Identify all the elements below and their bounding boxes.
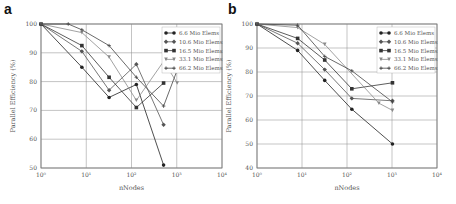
marker-square xyxy=(172,49,176,53)
marker-plus xyxy=(66,22,70,26)
panel-label: a xyxy=(4,1,12,17)
x-tick-label: 10⁴ xyxy=(217,171,228,178)
marker-circle xyxy=(135,83,139,87)
marker-circle xyxy=(107,96,111,100)
marker-square xyxy=(162,81,166,85)
marker-triangle xyxy=(377,101,381,105)
marker-square xyxy=(387,49,391,53)
legend-entry: 10.6 Mio Elems xyxy=(394,39,438,45)
y-tick-label: 60 xyxy=(245,116,253,123)
series-1 xyxy=(39,22,166,127)
figure: a506070809010010⁰10¹10²10³10⁴nNodesParal… xyxy=(0,0,456,204)
marker-circle xyxy=(296,49,300,53)
series-1 xyxy=(255,22,395,103)
marker-circle xyxy=(162,163,166,167)
x-tick-label: 10¹ xyxy=(297,171,307,178)
x-tick-label: 10⁴ xyxy=(432,171,443,178)
series-0 xyxy=(255,22,394,146)
x-axis-label: nNodes xyxy=(334,184,359,192)
legend: 6.6 Mio Elems10.6 Mio Elems16.5 Mio Elem… xyxy=(377,27,438,73)
legend-entry: 33.1 Mio Elems xyxy=(179,56,223,62)
x-tick-label: 10² xyxy=(126,171,137,178)
series-line xyxy=(257,24,393,102)
series-line xyxy=(257,24,393,101)
y-tick-label: 80 xyxy=(29,78,37,85)
chart-panel-b: b40506070809010010⁰10¹10²10³10⁴nNodesPar… xyxy=(225,1,443,192)
marker-triangle xyxy=(175,81,179,85)
chart-panel-a: a506070809010010⁰10¹10²10³10⁴nNodesParal… xyxy=(4,1,228,192)
legend: 6.6 Mio Elems10.6 Mio Elems16.5 Mio Elem… xyxy=(162,27,223,73)
series-line xyxy=(257,24,393,144)
y-axis-label: Parallel Efficiency (%) xyxy=(9,59,17,132)
marker-square xyxy=(379,49,383,53)
marker-circle xyxy=(80,65,84,69)
series-0 xyxy=(39,22,165,167)
y-tick-label: 100 xyxy=(26,20,38,27)
x-axis-label: nNodes xyxy=(119,184,144,192)
series-4 xyxy=(39,22,179,108)
y-tick-label: 90 xyxy=(29,49,37,56)
marker-triangle xyxy=(391,109,395,113)
marker-square xyxy=(135,106,139,110)
marker-square xyxy=(107,75,111,79)
y-tick-label: 90 xyxy=(245,44,253,51)
y-axis-label: Parallel Efficiency (%) xyxy=(225,59,233,132)
y-tick-label: 70 xyxy=(29,106,37,113)
y-tick-label: 40 xyxy=(245,164,253,171)
marker-square xyxy=(323,58,327,62)
series-3 xyxy=(255,22,394,112)
y-tick-label: 50 xyxy=(29,164,37,171)
x-tick-label: 10³ xyxy=(172,171,183,178)
series-line xyxy=(41,24,164,165)
series-line xyxy=(41,24,177,106)
series-4 xyxy=(255,22,394,104)
legend-entry: 33.1 Mio Elems xyxy=(394,56,438,62)
x-tick-label: 10³ xyxy=(387,171,398,178)
legend-entry: 6.6 Mio Elems xyxy=(179,30,219,36)
marker-square xyxy=(164,49,168,53)
panel-label: b xyxy=(228,1,237,17)
legend-entry: 16.5 Mio Elems xyxy=(179,48,223,54)
legend-entry: 66.2 Mio Elems xyxy=(179,65,223,71)
marker-circle xyxy=(350,107,354,111)
marker-circle xyxy=(379,31,383,35)
legend-entry: 16.5 Mio Elems xyxy=(394,48,438,54)
y-tick-label: 50 xyxy=(245,140,253,147)
y-tick-label: 60 xyxy=(29,135,37,142)
marker-circle xyxy=(387,31,391,35)
marker-square xyxy=(391,81,395,85)
marker-square xyxy=(80,44,84,48)
marker-circle xyxy=(172,31,176,35)
y-tick-label: 80 xyxy=(245,68,253,75)
marker-circle xyxy=(391,142,395,146)
legend-entry: 6.6 Mio Elems xyxy=(394,30,434,36)
x-tick-label: 10⁰ xyxy=(252,171,263,178)
marker-triangle xyxy=(135,99,139,103)
y-tick-label: 100 xyxy=(242,20,254,27)
marker-diamond xyxy=(161,123,165,127)
x-tick-label: 10¹ xyxy=(81,171,91,178)
legend-entry: 10.6 Mio Elems xyxy=(179,39,223,45)
marker-square xyxy=(350,87,354,91)
marker-square xyxy=(296,37,300,41)
x-tick-label: 10² xyxy=(342,171,353,178)
x-tick-label: 10⁰ xyxy=(36,171,47,178)
legend-entry: 66.2 Mio Elems xyxy=(394,65,438,71)
marker-circle xyxy=(164,31,168,35)
marker-circle xyxy=(323,79,327,83)
y-tick-label: 70 xyxy=(245,92,253,99)
